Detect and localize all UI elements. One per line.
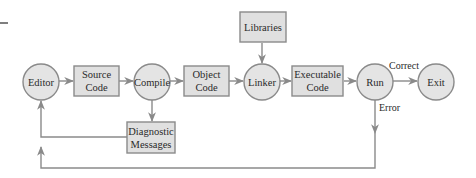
node-run: Run [357, 64, 393, 100]
node-linker-label: Linker [248, 77, 276, 88]
node-executable-code: Executable Code [292, 66, 343, 96]
node-object-code: Object Code [184, 66, 229, 96]
edge-label-error: Error [379, 102, 401, 113]
node-object-code-line1: Object [193, 69, 221, 80]
node-libraries: Libraries [240, 12, 286, 42]
edge-run-error-to-editor [41, 133, 375, 168]
node-linker: Linker [244, 64, 280, 100]
node-run-label: Run [366, 77, 384, 88]
node-executable-code-line2: Code [306, 82, 329, 93]
node-source-code-line1: Source [82, 69, 111, 80]
node-editor: Editor [23, 64, 59, 100]
node-exit: Exit [418, 64, 454, 100]
node-executable-code-line1: Executable [294, 69, 341, 80]
node-exit-label: Exit [427, 77, 445, 88]
node-compile-label: Compile [134, 77, 171, 88]
node-diagnostic-messages-line2: Messages [131, 139, 172, 150]
node-diagnostic-messages: Diagnostic Messages [127, 122, 175, 153]
node-compile: Compile [134, 64, 171, 100]
program-development-diagram: Editor Source Code Compile Diagnostic Me… [0, 0, 476, 178]
node-editor-label: Editor [28, 77, 55, 88]
node-diagnostic-messages-line1: Diagnostic [128, 126, 174, 137]
node-source-code-line2: Code [85, 82, 108, 93]
edge-label-correct: Correct [389, 60, 419, 71]
edge-diagnostic-messages-to-editor [41, 101, 127, 137]
node-object-code-line2: Code [195, 82, 218, 93]
node-source-code: Source Code [74, 66, 119, 96]
node-libraries-label: Libraries [244, 22, 282, 33]
